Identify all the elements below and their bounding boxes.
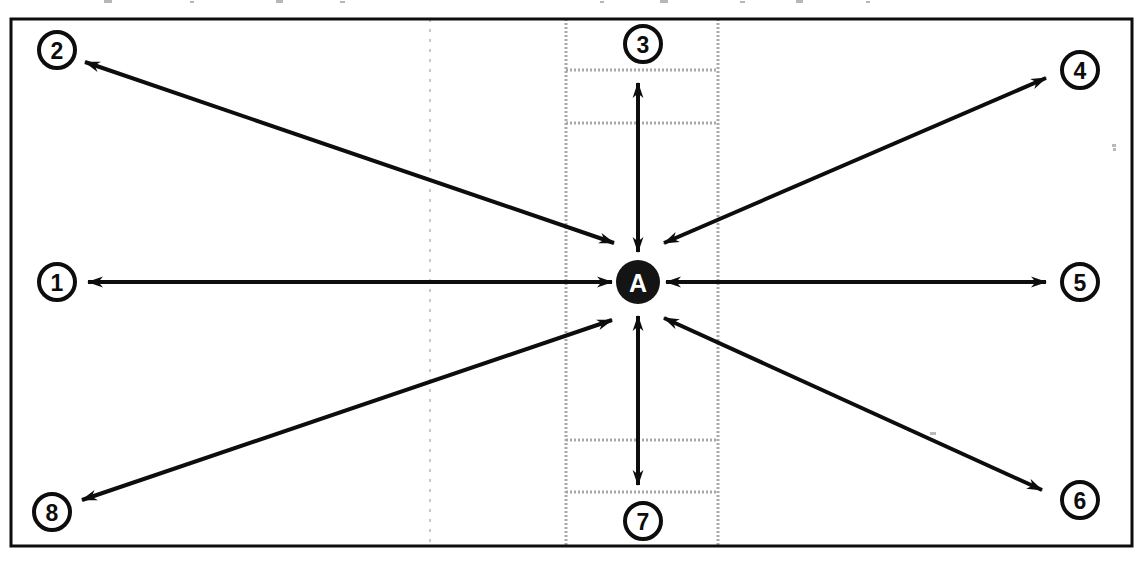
port-label-2: 2 xyxy=(51,38,64,64)
port-label-5: 5 xyxy=(1074,270,1087,296)
scan-speck xyxy=(1113,148,1116,151)
port-circle-6[interactable]: 6 xyxy=(1062,482,1098,518)
port-circle-3[interactable]: 3 xyxy=(625,26,661,62)
port-label-1: 1 xyxy=(51,270,64,296)
port-label-3: 3 xyxy=(637,32,650,58)
diagram-canvas: 1 2 3 4 5 6 7 8 xyxy=(0,0,1146,562)
port-circle-2[interactable]: 2 xyxy=(39,32,75,68)
port-circle-1[interactable]: 1 xyxy=(39,264,75,300)
port-circle-8[interactable]: 8 xyxy=(34,494,70,530)
port-label-7: 7 xyxy=(637,509,650,535)
scan-speck xyxy=(1112,144,1116,147)
port-circle-5[interactable]: 5 xyxy=(1062,264,1098,300)
port-circle-7[interactable]: 7 xyxy=(625,503,661,539)
center-node-a[interactable]: A xyxy=(616,260,660,304)
scan-speck xyxy=(930,432,936,435)
port-label-6: 6 xyxy=(1074,488,1087,514)
center-node-label: A xyxy=(629,269,647,297)
port-label-8: 8 xyxy=(46,500,59,526)
radial-arrow-diagram: 1 2 3 4 5 6 7 8 xyxy=(0,0,1146,562)
port-label-4: 4 xyxy=(1074,58,1087,84)
port-circle-4[interactable]: 4 xyxy=(1062,52,1098,88)
